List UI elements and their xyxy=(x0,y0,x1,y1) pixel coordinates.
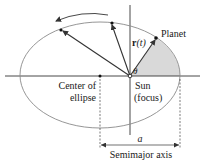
orbit-diagram: Planet r(t) θ Center of ellipse Sun (foc… xyxy=(0,0,203,162)
planet-point xyxy=(154,36,158,40)
orbit-point-1 xyxy=(59,28,62,31)
sun-label-line1: Sun xyxy=(135,80,151,91)
position-vector-label: r(t) xyxy=(132,37,147,49)
position-vector-arg: (t) xyxy=(136,37,146,49)
sun-label-line2: (focus) xyxy=(134,92,162,104)
semimajor-symbol-label: a xyxy=(138,133,143,144)
center-label-line2: ellipse xyxy=(70,92,97,103)
semimajor-axis-label: Semimajor axis xyxy=(110,149,173,160)
orbit-point-2 xyxy=(110,21,113,24)
sun-point xyxy=(128,74,132,78)
center-point xyxy=(99,75,102,78)
orbit-direction-arrow-icon xyxy=(56,13,108,21)
radius-vector-1 xyxy=(63,31,130,76)
angle-theta-label: θ xyxy=(133,66,138,76)
radius-vector-2 xyxy=(112,25,130,76)
center-label-line1: Center of xyxy=(59,80,97,91)
planet-label: Planet xyxy=(161,28,186,39)
